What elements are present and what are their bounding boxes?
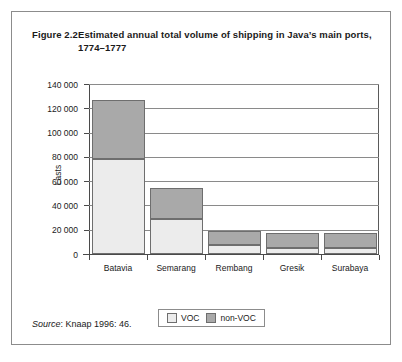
bar-segment-voc <box>208 245 261 254</box>
bar-semarang <box>150 188 203 254</box>
bar-segment-non-voc <box>208 231 261 245</box>
legend-label: VOC <box>181 313 199 323</box>
y-tick-mark <box>84 181 89 182</box>
bar-segment-voc <box>266 248 319 254</box>
x-axis-line <box>83 254 379 255</box>
bar-rembang <box>208 231 261 254</box>
y-tick-mark <box>84 108 89 109</box>
figure-title-line1: Estimated annual total volume of shippin… <box>78 29 372 40</box>
bar-segment-non-voc <box>266 233 319 248</box>
x-tick-mark <box>379 255 380 260</box>
y-tick-label: 120 000 <box>22 105 78 114</box>
bar-segment-voc <box>324 248 377 254</box>
source-note: Source: Knaap 1996: 46. <box>32 319 132 329</box>
bar-segment-non-voc <box>150 188 203 219</box>
legend-item-voc: VOC <box>167 313 199 323</box>
y-tick-mark <box>84 230 89 231</box>
x-tick-mark <box>263 255 264 260</box>
bar-segment-non-voc <box>92 100 145 159</box>
y-tick-label: 60 000 <box>22 178 78 187</box>
bar-segment-voc <box>150 219 203 254</box>
y-tick-label: 40 000 <box>22 202 78 211</box>
figure-caption: Figure 2.2Estimated annual total volume … <box>32 28 376 42</box>
legend-swatch-voc <box>167 313 177 323</box>
legend-label: non-VOC <box>220 313 255 323</box>
y-tick-label: 100 000 <box>22 129 78 138</box>
x-tick-mark <box>147 255 148 260</box>
y-tick-mark <box>84 205 89 206</box>
legend-swatch-non-voc <box>206 313 216 323</box>
y-tick-mark <box>84 157 89 158</box>
y-tick-label: 140 000 <box>22 81 78 90</box>
x-tick-mark <box>205 255 206 260</box>
legend-item-non-voc: non-VOC <box>206 313 255 323</box>
plot-area: 020 00040 00060 00080 000100 000120 0001… <box>89 84 379 255</box>
figure-number: Figure 2.2 <box>32 28 78 42</box>
gridline <box>89 84 379 85</box>
y-tick-label: 0 <box>22 251 78 260</box>
source-text: : Knaap 1996: 46. <box>61 319 132 329</box>
bar-segment-non-voc <box>324 233 377 248</box>
figure-title-line2: 1774–1777 <box>78 42 126 53</box>
chart-legend: VOCnon-VOC <box>158 309 265 327</box>
chart-area: Lasts 020 00040 00060 00080 000100 00012… <box>32 74 384 299</box>
source-label: Source <box>32 319 61 329</box>
y-tick-label: 20 000 <box>22 226 78 235</box>
x-category-label: Surabaya <box>305 263 395 273</box>
figure-frame: Figure 2.2Estimated annual total volume … <box>11 11 391 345</box>
bar-gresik <box>266 233 319 254</box>
y-tick-mark <box>84 84 89 85</box>
x-tick-mark <box>321 255 322 260</box>
y-tick-label: 80 000 <box>22 153 78 162</box>
bar-surabaya <box>324 233 377 254</box>
x-tick-mark <box>89 255 90 260</box>
bar-segment-voc <box>92 159 145 254</box>
y-tick-mark <box>84 133 89 134</box>
bar-batavia <box>92 100 145 254</box>
